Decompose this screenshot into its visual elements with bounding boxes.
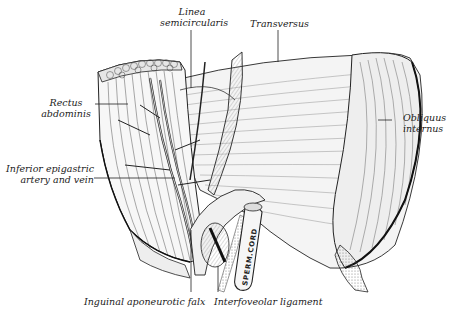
label-line: abdominis: [36, 108, 96, 119]
anatomy-figure: SPERM.CORD Linea semicircularis Transver…: [0, 0, 450, 315]
label-line: Obliquus: [403, 112, 446, 123]
rectus-abdominis-muscle: [98, 60, 201, 263]
label-line: artery and vein: [6, 174, 94, 185]
label-interfoveolar-ligament: Interfoveolar ligament: [214, 296, 322, 307]
label-line: internus: [403, 123, 446, 134]
label-line: Linea: [160, 6, 224, 17]
label-obliquus-internus: Obliquus internus: [403, 112, 446, 134]
label-inguinal-falx: Inguinal aponeurotic falx: [84, 296, 205, 307]
label-rectus-abdominis: Rectus abdominis: [36, 97, 96, 119]
label-line: semicircularis: [160, 17, 224, 28]
label-transversus: Transversus: [250, 18, 309, 29]
label-linea-semicircularis: Linea semicircularis: [160, 6, 224, 28]
label-line: Rectus: [36, 97, 96, 108]
spermatic-cord: SPERM.CORD: [235, 203, 262, 290]
label-inferior-epigastric: Inferior epigastric artery and vein: [6, 163, 94, 185]
label-line: Inferior epigastric: [6, 163, 94, 174]
muscle-illustration: SPERM.CORD: [0, 0, 450, 315]
